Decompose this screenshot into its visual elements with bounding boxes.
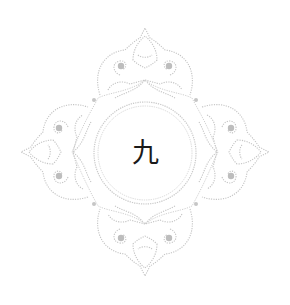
center-character: 九: [0, 0, 290, 305]
